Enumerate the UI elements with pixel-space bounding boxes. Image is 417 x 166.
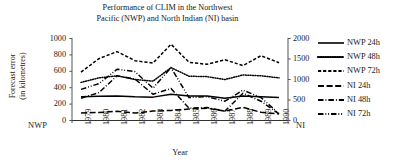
legend-item-nwp-48h[interactable]: NWP 48h <box>318 50 417 64</box>
legend-swatch-solid-icon <box>318 38 344 48</box>
series-line-ni-24h <box>81 107 279 114</box>
legend-label: NWP 48h <box>347 52 380 62</box>
series-line-ni-72h <box>81 68 279 114</box>
legend-label: NI 48h <box>347 95 371 105</box>
legend-swatch-dotted-icon <box>318 52 344 62</box>
legend-swatch-dash-dot-icon <box>318 95 344 105</box>
legend-item-ni-72h[interactable]: NI 72h <box>318 107 417 121</box>
legend-item-nwp-72h[interactable]: NWP 72h <box>318 64 417 78</box>
chart-legend: NWP 24hNWP 48hNWP 72hNI 24hNI 48hNI 72h <box>318 36 417 121</box>
legend-swatch-long-dash-icon <box>318 81 344 91</box>
chart-figure: Performance of CLIM in the Northwest Pac… <box>0 0 417 166</box>
legend-label: NWP 24h <box>347 38 380 48</box>
legend-label: NI 24h <box>347 81 371 91</box>
legend-item-ni-48h[interactable]: NI 48h <box>318 93 417 107</box>
legend-label: NWP 72h <box>347 66 380 76</box>
legend-item-nwp-24h[interactable]: NWP 24h <box>318 36 417 50</box>
legend-label: NI 72h <box>347 109 371 119</box>
legend-swatch-dash-dot-dot-icon <box>318 109 344 119</box>
legend-swatch-dashed-icon <box>318 66 344 76</box>
series-line-nwp-72h <box>81 44 279 72</box>
legend-item-ni-24h[interactable]: NI 24h <box>318 79 417 93</box>
